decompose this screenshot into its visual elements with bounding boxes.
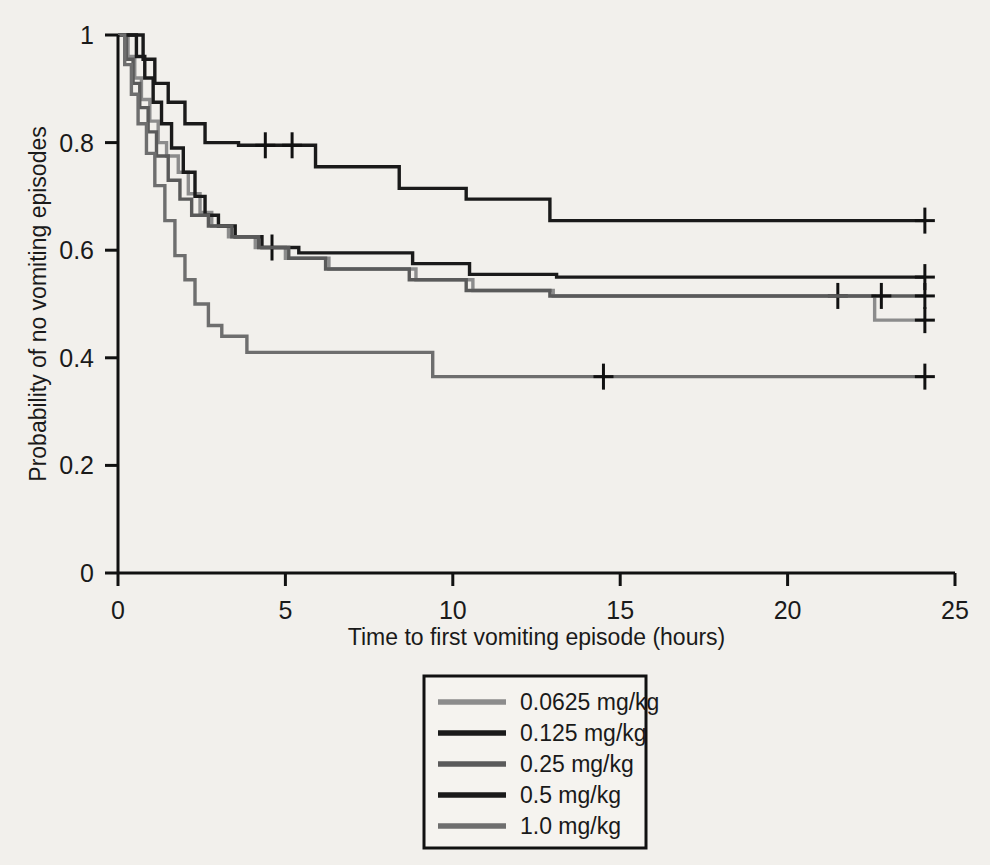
y-tick-label: 0.4: [59, 344, 94, 372]
legend-label: 0.0625 mg/kg: [520, 689, 659, 715]
legend-label: 1.0 mg/kg: [520, 813, 621, 839]
y-tick-label: 1: [80, 21, 94, 49]
kaplan-meier-figure: 00.20.40.60.810510152025Time to first vo…: [0, 0, 990, 865]
x-tick-label: 20: [774, 596, 802, 624]
series-line-1: [118, 35, 925, 277]
censor-mark: [255, 132, 275, 158]
legend-label: 0.25 mg/kg: [520, 751, 634, 777]
x-tick-label: 0: [111, 596, 125, 624]
x-tick-label: 15: [606, 596, 634, 624]
x-tick-label: 10: [439, 596, 467, 624]
x-tick-label: 5: [278, 596, 292, 624]
censor-mark: [915, 307, 935, 333]
x-tick-label: 25: [941, 596, 969, 624]
chart-legend: 0.0625 mg/kg0.125 mg/kg0.25 mg/kg0.5 mg/…: [424, 676, 659, 848]
series-line-2: [118, 35, 925, 296]
y-tick-label: 0.6: [59, 236, 94, 264]
survival-chart: 00.20.40.60.810510152025Time to first vo…: [0, 0, 990, 865]
plot-area: [118, 35, 935, 390]
censor-mark: [915, 208, 935, 234]
y-tick-label: 0.8: [59, 129, 94, 157]
censor-mark: [915, 364, 935, 390]
x-axis-title: Time to first vomiting episode (hours): [348, 624, 726, 650]
axes-layer: 00.20.40.60.810510152025Time to first vo…: [25, 21, 969, 650]
series-line-3: [118, 35, 925, 221]
censor-mark: [282, 132, 302, 158]
y-tick-label: 0: [80, 559, 94, 587]
y-axis-title: Probability of no vomiting episodes: [25, 126, 51, 481]
legend-label: 0.5 mg/kg: [520, 782, 621, 808]
series-line-4: [118, 35, 925, 377]
legend-label: 0.125 mg/kg: [520, 720, 647, 746]
censor-mark: [593, 364, 613, 390]
y-tick-label: 0.2: [59, 451, 94, 479]
censor-mark: [915, 283, 935, 309]
